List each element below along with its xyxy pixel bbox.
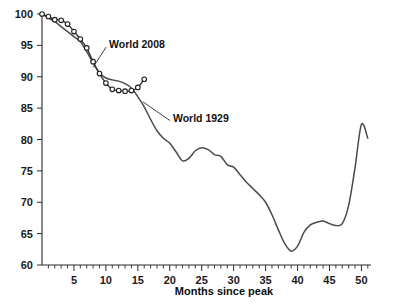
- series-marker-world-2008: [78, 37, 83, 42]
- series-marker-world-2008: [52, 17, 57, 22]
- line-chart-canvas: 6065707580859095100 5101520253035404550 …: [0, 0, 401, 307]
- x-tick-label: 50: [355, 274, 367, 286]
- chart-figure: 6065707580859095100 5101520253035404550 …: [0, 0, 401, 307]
- series-marker-world-2008: [46, 14, 51, 19]
- series-marker-world-2008: [91, 59, 96, 64]
- series-marker-world-2008: [104, 81, 109, 86]
- x-tick-label: 15: [132, 274, 144, 286]
- y-tick-label: 95: [21, 39, 33, 51]
- y-tick-label: 85: [21, 102, 33, 114]
- series-marker-world-2008: [59, 18, 64, 23]
- x-axis-title: Months since peak: [175, 285, 274, 297]
- series-marker-world-2008: [110, 87, 115, 92]
- series-marker-world-2008: [142, 77, 147, 82]
- series-marker-world-2008: [40, 12, 45, 17]
- x-tick-label: 45: [323, 274, 335, 286]
- y-tick-label: 60: [21, 259, 33, 271]
- y-tick-label: 100: [15, 8, 33, 20]
- y-tick-label: 90: [21, 71, 33, 83]
- series-marker-world-2008: [72, 29, 77, 34]
- annotation-label-world-2008: World 2008: [109, 38, 165, 50]
- series-marker-world-2008: [123, 89, 128, 94]
- series-marker-world-2008: [97, 71, 102, 76]
- series-marker-world-2008: [84, 46, 89, 51]
- chart-background: [0, 0, 401, 307]
- x-tick-label: 5: [71, 274, 77, 286]
- series-marker-world-2008: [116, 88, 121, 93]
- x-tick-label: 40: [291, 274, 303, 286]
- y-tick-label: 65: [21, 228, 33, 240]
- series-marker-world-2008: [129, 88, 134, 93]
- y-tick-label: 80: [21, 134, 33, 146]
- y-tick-label: 75: [21, 165, 33, 177]
- y-tick-label: 70: [21, 196, 33, 208]
- series-marker-world-2008: [136, 85, 141, 90]
- annotation-label-world-1929: World 1929: [173, 112, 229, 124]
- series-marker-world-2008: [65, 22, 70, 27]
- x-tick-label: 10: [100, 274, 112, 286]
